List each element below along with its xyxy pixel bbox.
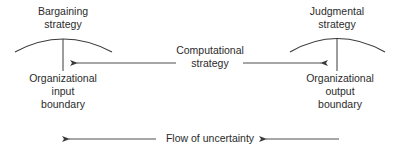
bargaining-strategy-label: Bargaining strategy bbox=[23, 5, 103, 31]
flow-of-uncertainty-label: Flow of uncertainty bbox=[157, 132, 263, 145]
computational-strategy-label: Computational strategy bbox=[165, 44, 255, 70]
uncertainty-strategy-diagram: Bargaining strategy Organizational input… bbox=[0, 0, 402, 158]
input-boundary-label: Organizational input boundary bbox=[18, 72, 108, 111]
output-boundary-label: Organizational output boundary bbox=[295, 72, 385, 111]
judgmental-strategy-label: Judgmental strategy bbox=[297, 5, 377, 31]
